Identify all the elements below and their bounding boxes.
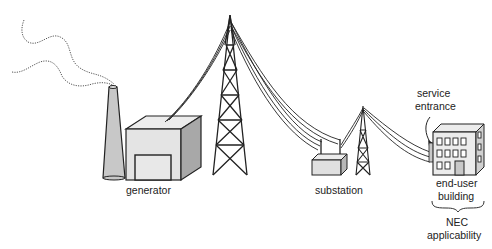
service-entrance-arrow-icon <box>426 117 433 146</box>
smoke-icon <box>12 20 114 86</box>
label-generator: generator <box>126 184 171 196</box>
power-lines-transmission <box>231 22 340 150</box>
label-service-entrance-2: entrance <box>415 100 456 112</box>
transmission-tower-large-icon <box>213 15 247 175</box>
power-lines-distribution <box>364 108 430 162</box>
label-substation: substation <box>315 184 363 196</box>
power-distribution-diagram <box>0 0 492 249</box>
label-service-entrance-1: service <box>417 87 450 99</box>
label-end-user-2: building <box>438 190 474 202</box>
label-nec-2: applicability <box>427 229 481 241</box>
end-user-building-icon <box>429 124 484 175</box>
label-nec-1: NEC <box>446 216 468 228</box>
label-end-user-1: end-user <box>436 177 477 189</box>
nec-brace-icon <box>432 201 484 212</box>
generator-building-icon <box>126 116 201 180</box>
smokestack-icon <box>103 86 125 181</box>
